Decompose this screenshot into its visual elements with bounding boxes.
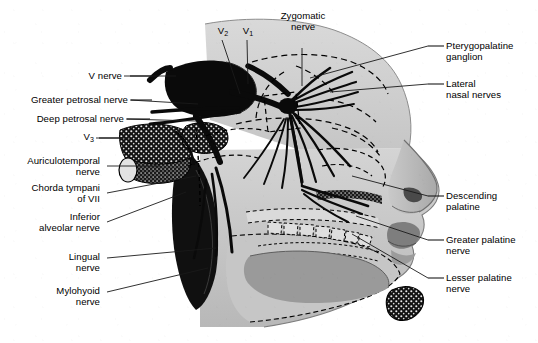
label-auriculotemporal-line2: nerve — [8, 166, 100, 177]
label-greater-petrosal-nerve-text: Greater petrosal nerve — [31, 94, 128, 105]
label-v1-subscript: 1 — [249, 30, 253, 38]
label-inferior-alveolar-line2: alveolar nerve — [8, 222, 100, 233]
label-chorda-tympani: Chorda tympani of VII — [8, 182, 100, 205]
label-pterygopalatine-line2: ganglion — [446, 51, 536, 62]
label-lateral-nasal-line1: Lateral — [446, 78, 536, 89]
label-lateral-nasal-nerves: Lateral nasal nerves — [446, 78, 536, 101]
label-greater-petrosal-nerve: Greater petrosal nerve — [6, 94, 128, 105]
label-descending-palatine: Descending palatine — [446, 190, 536, 213]
label-lingual-line1: Lingual — [8, 251, 100, 262]
label-zygomatic-line2: nerve — [264, 21, 342, 32]
label-inferior-alveolar-nerve: Inferior alveolar nerve — [8, 211, 100, 234]
label-mylohyoid-line1: Mylohyoid — [8, 285, 100, 296]
anatomical-figure: V nerve Greater petrosal nerve Deep petr… — [0, 0, 538, 343]
label-inferior-alveolar-line1: Inferior — [8, 211, 100, 222]
label-descending-palatine-line1: Descending — [446, 190, 536, 201]
label-v2-subscript: 2 — [224, 30, 228, 38]
label-pterygopalatine-line1: Pterygopalatine — [446, 40, 536, 51]
label-lesser-palatine-nerve: Lesser palatine nerve — [446, 272, 538, 295]
label-lingual-nerve: Lingual nerve — [8, 251, 100, 274]
label-v1: V1 — [235, 25, 261, 36]
label-greater-palatine-nerve: Greater palatine nerve — [446, 234, 538, 257]
label-layer: V nerve Greater petrosal nerve Deep petr… — [0, 0, 538, 343]
label-lateral-nasal-line2: nasal nerves — [446, 89, 536, 100]
label-chorda-tympani-line1: Chorda tympani — [8, 182, 100, 193]
label-deep-petrosal-nerve: Deep petrosal nerve — [6, 113, 124, 124]
label-lesser-palatine-line2: nerve — [446, 283, 538, 294]
label-lingual-line2: nerve — [8, 262, 100, 273]
label-descending-palatine-line2: palatine — [446, 201, 536, 212]
label-zygomatic-line1: Zygomatic — [264, 10, 342, 21]
label-greater-palatine-line1: Greater palatine — [446, 234, 538, 245]
label-v3-subscript: 3 — [90, 136, 94, 144]
label-mylohyoid-nerve: Mylohyoid nerve — [8, 285, 100, 308]
label-chorda-tympani-line2: of VII — [8, 193, 100, 204]
label-v2: V2 — [210, 25, 236, 36]
label-v-nerve: V nerve — [8, 70, 122, 81]
label-mylohyoid-line2: nerve — [8, 296, 100, 307]
label-deep-petrosal-nerve-text: Deep petrosal nerve — [37, 113, 124, 124]
label-lesser-palatine-line1: Lesser palatine — [446, 272, 538, 283]
label-pterygopalatine-ganglion: Pterygopalatine ganglion — [446, 40, 536, 63]
label-auriculotemporal-nerve: Auriculotemporal nerve — [8, 155, 100, 178]
label-greater-palatine-line2: nerve — [446, 245, 538, 256]
label-auriculotemporal-line1: Auriculotemporal — [8, 155, 100, 166]
label-v-nerve-text: V nerve — [89, 70, 122, 81]
label-v3: V3 — [40, 131, 94, 142]
label-zygomatic-nerve: Zygomatic nerve — [264, 10, 342, 33]
